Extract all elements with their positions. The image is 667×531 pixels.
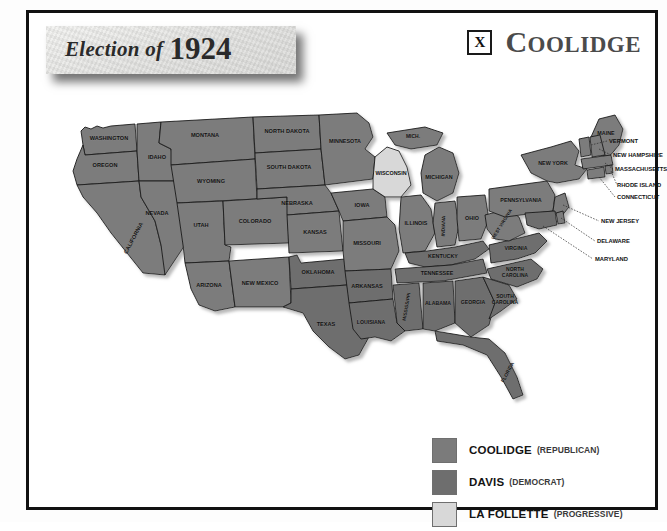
- state-label-missouri: MISSOURI: [353, 240, 381, 246]
- state-label-arizona: ARIZONA: [196, 282, 221, 288]
- state-label-washington: WASHINGTON: [90, 135, 128, 141]
- state-label-nebraska: NEBRASKA: [281, 200, 313, 206]
- state-label-iowa: IOWA: [355, 202, 370, 208]
- callout-label-vermont: VERMONT: [609, 138, 638, 144]
- state-alabama[interactable]: [423, 281, 455, 331]
- state-label-michigan-up: MICH.: [406, 133, 421, 139]
- map-legend: COOLIDGE(REPUBLICAN)DAVIS(DEMOCRAT)LA FO…: [432, 437, 623, 531]
- winner-banner: X COOLIDGE: [467, 27, 641, 57]
- state-label-idaho: IDAHO: [148, 154, 167, 160]
- state-label-nevada: NEVADA: [145, 210, 168, 216]
- callout-label-maryland: MARYLAND: [595, 256, 628, 262]
- callout-label-connecticut: CONNECTICUT: [617, 194, 660, 200]
- state-label-minnesota: MINNESOTA: [329, 138, 361, 144]
- legend-swatch: [432, 470, 457, 495]
- legend-candidate-name: COOLIDGE: [469, 444, 532, 456]
- state-north-dakota[interactable]: [253, 115, 321, 153]
- legend-party-name: (PROGRESSIVE): [554, 509, 623, 519]
- legend-row-coolidge: COOLIDGE(REPUBLICAN): [432, 437, 623, 463]
- state-label-ohio: OHIO: [465, 215, 479, 221]
- map-svg: WASHINGTONOREGONCALIFORNIAIDAHONEVADAMON…: [39, 93, 651, 423]
- state-label-south-carolina: SOUTH: [496, 293, 514, 299]
- state-rhode-island[interactable]: [605, 165, 613, 174]
- state-label-kansas: KANSAS: [303, 229, 327, 235]
- state-montana[interactable]: [159, 117, 255, 165]
- state-label-north-carolina: NORTH: [506, 266, 524, 272]
- winner-name-text: COOLIDGE: [505, 25, 641, 58]
- callout-label-massachusetts: MASSACHUSETTS: [615, 166, 667, 172]
- state-delaware[interactable]: [556, 211, 565, 224]
- state-label-wyoming: WYOMING: [197, 178, 225, 184]
- state-label-arkansas: ARKANSAS: [351, 283, 383, 289]
- title-year: 1924: [169, 31, 231, 66]
- state-label-alabama: ALABAMA: [425, 300, 451, 306]
- state-label-tennessee: TENNESSEE: [421, 270, 454, 276]
- legend-candidate-name: LA FOLLETTE: [469, 508, 549, 520]
- legend-swatch: [432, 502, 457, 527]
- winner-checkbox-icon: X: [467, 30, 492, 55]
- us-election-map: WASHINGTONOREGONCALIFORNIAIDAHONEVADAMON…: [39, 93, 651, 423]
- state-utah[interactable]: [177, 201, 231, 263]
- state-minnesota[interactable]: [319, 113, 375, 185]
- state-label-utah: UTAH: [193, 222, 208, 228]
- state-label-colorado: COLORADO: [239, 218, 272, 224]
- legend-swatch: [432, 438, 457, 463]
- state-label-north-carolina: CAROLINA: [502, 272, 529, 278]
- callout-label-new-jersey: NEW JERSEY: [601, 218, 639, 224]
- state-label-michigan: MICHIGAN: [425, 174, 452, 180]
- state-label-texas: TEXAS: [317, 321, 336, 327]
- state-label-maine: MAINE: [597, 130, 615, 136]
- callout-label-delaware: DELAWARE: [597, 238, 630, 244]
- legend-party-name: (DEMOCRAT): [509, 477, 564, 487]
- legend-row-la-follette: LA FOLLETTE(PROGRESSIVE): [432, 501, 623, 527]
- state-label-virginia: VIRGINIA: [504, 245, 527, 251]
- state-vermont[interactable]: [579, 137, 591, 157]
- page-frame: Election of1924 X COOLIDGE: [26, 10, 658, 510]
- state-label-oregon: OREGON: [93, 162, 118, 168]
- state-label-oklahoma: OKLAHOMA: [302, 269, 335, 275]
- state-label-montana: MONTANA: [191, 132, 219, 138]
- callout-label-new-hampshire: NEW HAMPSHIRE: [613, 152, 663, 158]
- state-connecticut[interactable]: [587, 167, 605, 179]
- state-label-illinois: ILLINOIS: [405, 220, 428, 226]
- state-label-new-york: NEW YORK: [538, 160, 568, 166]
- state-label-south-dakota: SOUTH DAKOTA: [267, 164, 312, 170]
- state-label-north-dakota: NORTH DAKOTA: [265, 128, 310, 134]
- state-label-louisiana: LOUISIANA: [357, 319, 386, 325]
- legend-candidate-name: DAVIS: [469, 476, 504, 488]
- callout-label-rhode-island: RHODE ISLAND: [617, 182, 661, 188]
- title-banner: Election of1924: [46, 26, 296, 74]
- legend-row-davis: DAVIS(DEMOCRAT): [432, 469, 623, 495]
- title-script: Election of: [65, 37, 163, 61]
- state-label-kentucky: KENTUCKY: [428, 253, 458, 259]
- state-label-indiana: INDIANA: [440, 215, 447, 236]
- legend-party-name: (REPUBLICAN): [537, 445, 600, 455]
- page-title: Election of1924: [65, 31, 231, 67]
- state-label-south-carolina: CAROLINA: [492, 299, 519, 305]
- winner-name: COOLIDGE: [505, 27, 641, 57]
- state-label-pennsylvania: PENNSYLVANIA: [500, 197, 542, 203]
- state-label-wisconsin: WISCONSIN: [375, 170, 406, 176]
- state-label-new-mexico: NEW MEXICO: [242, 280, 279, 286]
- state-maryland[interactable]: [525, 211, 557, 229]
- state-label-georgia: GEORGIA: [461, 299, 486, 305]
